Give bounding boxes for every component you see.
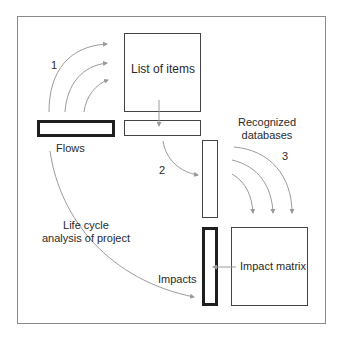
step-2-label: 2 (159, 164, 165, 177)
impacts-label: Impacts (158, 273, 197, 286)
lca-label: Life cycle analysis of project (40, 219, 132, 245)
flows-label: Flows (56, 142, 85, 155)
recognized-databases-label: Recognized databases (227, 116, 307, 142)
arrows-layer (0, 0, 344, 341)
recognized-databases-line1: Recognized (227, 116, 307, 129)
impact-matrix-label: Impact matrix (240, 260, 306, 273)
lca-line2: analysis of project (40, 232, 132, 245)
arrow-flows-to-list-3 (84, 80, 108, 112)
recognized-databases-line2: databases (227, 129, 307, 142)
arrow-bar-to-database (163, 141, 198, 175)
arrow-db-to-matrix-1 (232, 174, 253, 213)
list-of-items-label: List of items (131, 63, 195, 76)
lca-line1: Life cycle (40, 219, 132, 232)
step-1-label: 1 (51, 59, 57, 72)
step-3-label: 3 (282, 150, 288, 163)
